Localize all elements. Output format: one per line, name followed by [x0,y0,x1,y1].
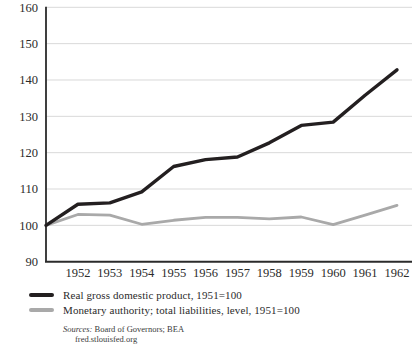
x-tick-label-1959: 1959 [289,266,314,280]
x-tick-label-1952: 1952 [65,266,90,280]
y-tick-label-130: 130 [19,110,38,124]
chart-figure: 9010011012013014015016019521953195419551… [0,0,419,347]
gdp-line [46,70,397,226]
y-tick-label-90: 90 [26,255,39,269]
chart-legend: Real gross domestic product, 1951=100 Mo… [29,287,409,317]
y-tick-label-110: 110 [20,182,38,196]
x-tick-label-1954: 1954 [129,266,155,280]
x-tick-label-1953: 1953 [97,266,122,280]
x-tick-label-1955: 1955 [161,266,186,280]
sources-label: Sources: [63,324,92,334]
x-tick-label-1961: 1961 [353,266,378,280]
x-tick-label-1962: 1962 [385,266,410,280]
line-chart: 9010011012013014015016019521953195419551… [0,0,419,282]
x-tick-label-1956: 1956 [193,266,218,280]
y-tick-label-160: 160 [19,1,38,15]
y-tick-label-140: 140 [19,73,38,87]
legend-label-monetary: Monetary authority; total liabilities, l… [63,304,300,316]
y-tick-label-120: 120 [19,146,38,160]
legend-label-gdp: Real gross domestic product, 1951=100 [63,289,242,301]
source-note: Sources: Board of Governors; BEA fred.st… [63,325,184,344]
x-tick-label-1960: 1960 [321,266,346,280]
legend-item-gdp: Real gross domestic product, 1951=100 [29,287,409,302]
sources-text: Board of Governors; BEA [95,324,184,334]
x-tick-label-1958: 1958 [257,266,282,280]
y-tick-label-100: 100 [19,219,38,233]
x-tick-label-1957: 1957 [225,266,250,280]
monetary-line-swatch [29,308,54,312]
legend-item-monetary: Monetary authority; total liabilities, l… [29,302,409,317]
monetary-line [46,205,397,225]
gdp-line-swatch [29,293,54,297]
y-tick-label-150: 150 [19,37,38,51]
sources-url: fred.stlouisfed.org [63,335,184,345]
